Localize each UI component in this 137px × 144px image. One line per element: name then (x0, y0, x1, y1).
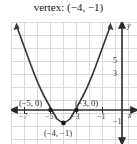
graph-figure: vertex: (−4, −1) (0, 0, 137, 144)
point-vertex (61, 121, 66, 126)
x-tick-label-neg1: −1 (97, 112, 106, 121)
figure-title: vertex: (−4, −1) (0, 1, 137, 13)
y-tick-label-3: 3 (113, 69, 117, 78)
y-tick-label-neg1: −1 (113, 117, 122, 126)
y-axis-label: y (127, 21, 131, 30)
x-tick-label-neg3: −3 (71, 112, 80, 121)
y-tick-label-5: 5 (113, 56, 117, 65)
x-tick-label-neg7: −7 (19, 112, 28, 121)
point-label-root-left: (−5, 0) (19, 98, 42, 108)
point-label-root-right: (−3, 0) (75, 98, 98, 108)
x-axis-label: x (128, 111, 132, 120)
x-tick-label-neg5: −5 (45, 112, 54, 121)
point-label-vertex: (−4, −1) (44, 128, 72, 138)
